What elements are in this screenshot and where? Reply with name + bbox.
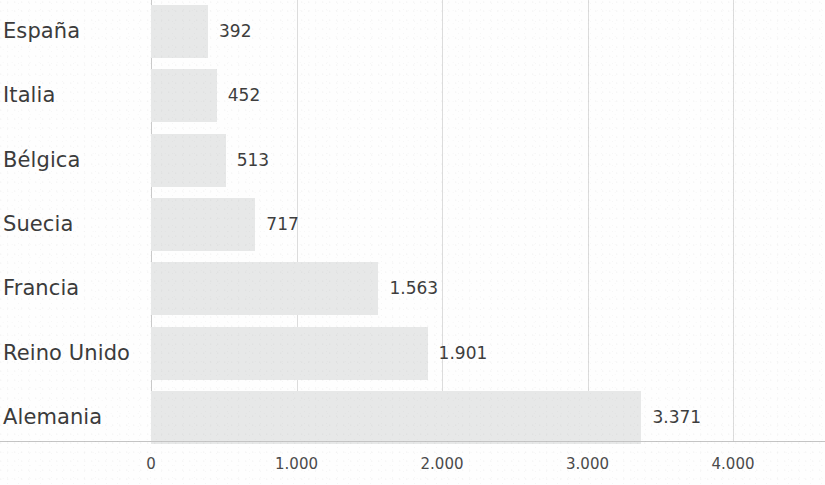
bar-row: Italia452	[0, 69, 825, 122]
x-tick-label: 0	[146, 455, 156, 473]
bar	[151, 262, 378, 315]
bar-value-label: 3.371	[652, 391, 701, 444]
x-tick-label: 2.000	[421, 455, 464, 473]
category-label: Reino Unido	[3, 327, 130, 380]
bar	[151, 134, 226, 187]
category-label: Francia	[3, 262, 79, 315]
category-label: Bélgica	[3, 134, 80, 187]
bar	[151, 198, 255, 251]
category-label: España	[3, 5, 80, 58]
bar	[151, 391, 641, 444]
x-tick-label: 1.000	[275, 455, 318, 473]
bar-row: España392	[0, 5, 825, 58]
x-tick-label: 3.000	[566, 455, 609, 473]
bar-value-label: 513	[237, 134, 269, 187]
x-axis-baseline	[0, 441, 825, 442]
bar-row: Reino Unido1.901	[0, 327, 825, 380]
bar-value-label: 1.901	[439, 327, 488, 380]
bar-value-label: 452	[228, 69, 260, 122]
bar-value-label: 1.563	[389, 262, 438, 315]
bar	[151, 69, 217, 122]
bar-row: Alemania3.371	[0, 391, 825, 444]
bar	[151, 5, 208, 58]
bar-value-label: 717	[266, 198, 298, 251]
horizontal-bar-chart: España392Italia452Bélgica513Suecia717Fra…	[0, 0, 825, 485]
bar-row: Bélgica513	[0, 134, 825, 187]
bar	[151, 327, 428, 380]
bar-value-label: 392	[219, 5, 251, 58]
x-tick-label: 4.000	[712, 455, 755, 473]
bar-row: Suecia717	[0, 198, 825, 251]
plot-area: España392Italia452Bélgica513Suecia717Fra…	[0, 0, 825, 485]
category-label: Suecia	[3, 198, 73, 251]
bar-row: Francia1.563	[0, 262, 825, 315]
category-label: Italia	[3, 69, 55, 122]
category-label: Alemania	[3, 391, 102, 444]
